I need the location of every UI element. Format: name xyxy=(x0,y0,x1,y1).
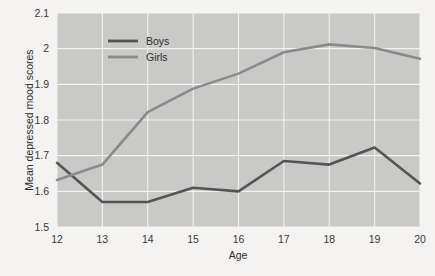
y-tick-label: 2 xyxy=(43,42,49,54)
y-tick-label: 1.9 xyxy=(34,78,49,90)
y-tick-label: 1.7 xyxy=(34,149,49,161)
x-tick-label: 20 xyxy=(414,233,426,245)
legend-label-girls: Girls xyxy=(146,51,168,63)
y-axis-title: Mean depressed mood scores xyxy=(23,49,35,190)
line-chart: 1.51.61.71.81.922.1 121314151617181920 A… xyxy=(0,0,435,276)
x-tick-label: 18 xyxy=(323,233,335,245)
x-tick-label: 15 xyxy=(187,233,199,245)
x-tick-label: 13 xyxy=(97,233,109,245)
y-tick-label: 1.8 xyxy=(34,114,49,126)
y-tick-label: 1.5 xyxy=(34,221,49,233)
y-tick-label: 1.6 xyxy=(34,185,49,197)
y-tick-label: 2.1 xyxy=(34,7,49,19)
x-tick-label: 14 xyxy=(142,233,154,245)
x-axis-title: Age xyxy=(229,249,248,261)
x-tick-label: 16 xyxy=(233,233,245,245)
x-axis-tick-labels: 121314151617181920 xyxy=(51,233,426,245)
legend-label-boys: Boys xyxy=(146,35,169,47)
x-tick-label: 19 xyxy=(369,233,381,245)
x-tick-label: 12 xyxy=(51,233,63,245)
x-tick-label: 17 xyxy=(278,233,290,245)
